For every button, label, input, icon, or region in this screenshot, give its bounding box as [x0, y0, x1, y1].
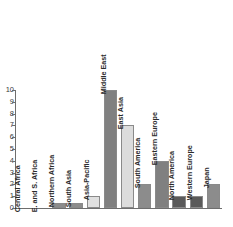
bar-category-label: Central Africa [14, 165, 21, 212]
y-axis-tick-mark [12, 125, 15, 126]
bar-category-label: Middle East [100, 54, 107, 94]
bar-category-label: Northern Africa [48, 155, 55, 207]
bar-group: South Asia [69, 88, 82, 208]
y-axis-tick-mark [12, 114, 15, 115]
y-axis-tick-mark [12, 149, 15, 150]
bar-category-label: South Asia [65, 170, 72, 207]
bar-group: Japan [207, 88, 220, 208]
bar-category-label: Eastern Europe [151, 112, 158, 165]
bar-category-label: North America [168, 151, 175, 200]
bar-chart-figure: 109876543210 Central AfricaE. and S. Afr… [0, 0, 233, 227]
bar-category-label: South America [134, 138, 141, 188]
bar-category-label: E. and S. Africa [31, 160, 38, 212]
y-axis-tick-mark [12, 137, 15, 138]
bar-category-label: Asia-Pacific [82, 160, 89, 201]
y-axis-tick-mark [12, 161, 15, 162]
bar-category-label: East Asia [117, 97, 124, 129]
bar-group: North America [172, 88, 185, 208]
bar-category-label: Western Europe [185, 145, 192, 200]
y-axis-tick-mark [12, 90, 15, 91]
plot-area: Central AfricaE. and S. AfricaNorthern A… [16, 88, 222, 208]
bar-group: Asia-Pacific [87, 88, 100, 208]
bar-group: Western Europe [190, 88, 203, 208]
y-axis-tick-mark [12, 102, 15, 103]
x-axis-line [15, 208, 222, 209]
chart-title [0, 0, 233, 4]
bar-category-label: Japan [203, 168, 210, 189]
